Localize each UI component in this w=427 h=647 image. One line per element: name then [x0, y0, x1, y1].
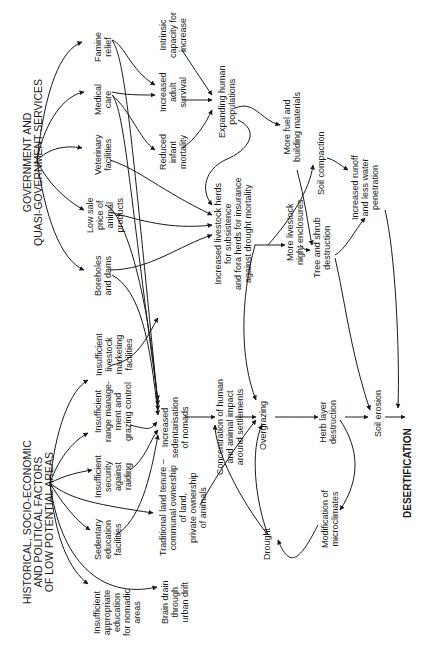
node-insufficient-security: Insufficient security against raiding [93, 455, 133, 498]
group-government-services: GOVERNMENT AND QUASI-GOVERNMENT SERVICES [22, 79, 44, 246]
node-boreholes-dams: Boreholes and dams [93, 255, 113, 296]
node-low-sale-price: Low sale price of animal products [85, 197, 125, 233]
node-overgrazing: Overgrazing [258, 401, 268, 450]
node-increased-adult-survival: Increased adult survival [158, 72, 188, 112]
node-famine-relief: Famine relief [93, 32, 113, 62]
node-more-enclosures: More livestock night enclosures [285, 199, 305, 265]
group-historical-factors: HISTORICAL, SOCIO-ECONOMIC AND POLITICAL… [22, 440, 55, 604]
node-traditional-land-tenure: Traditional land tenure – communal owner… [158, 459, 208, 556]
node-soil-erosion: Soil erosion [373, 390, 383, 437]
node-intrinsic-capacity: Intrinsic capacity for increase [158, 12, 188, 58]
node-drought: Drought [262, 528, 272, 560]
node-desertification: DESERTIFICATION [403, 428, 413, 518]
node-soil-compaction: Soil compaction [316, 131, 326, 195]
node-herb-layer-destruction: Herb layer destruction [318, 400, 338, 444]
node-insufficient-marketing: Insufficient livestock marketing facilit… [94, 333, 134, 376]
diagram-arrows [0, 0, 427, 647]
node-modification-microclimates: Modification of microclimates [320, 490, 340, 548]
node-increased-runoff: Increased runoff and less water penetrat… [350, 155, 380, 220]
node-insufficient-range: Insufficient range manage- ment and graz… [93, 381, 133, 442]
node-sedentary-education: Sedentary education facilities [93, 519, 123, 560]
node-insufficient-education: Insufficient appropriate education for n… [92, 589, 142, 636]
node-expanding-populations: Expanding human populations [217, 65, 237, 138]
node-tree-shrub-destruction: Tree and shrub destruction [312, 217, 332, 278]
node-concentration-impact: Concentration of human and animal impact… [215, 379, 245, 475]
node-reduced-infant-mortality: Reduced infant mortality [158, 134, 188, 170]
node-brain-drain: Brain drain through urban drift [160, 580, 190, 624]
node-more-fuel: More fuel and building materials [282, 92, 302, 162]
node-veterinary-facilities: Veterinary facilities [93, 134, 113, 175]
node-increased-sedentarisation: Increased sedentarisation of nomads [160, 397, 190, 458]
node-medical-care: Medical care [93, 84, 113, 115]
node-increased-livestock-herds: Increased livestock herds for subsistenc… [213, 177, 253, 290]
desertification-flow-diagram: GOVERNMENT AND QUASI-GOVERNMENT SERVICES… [0, 0, 427, 647]
